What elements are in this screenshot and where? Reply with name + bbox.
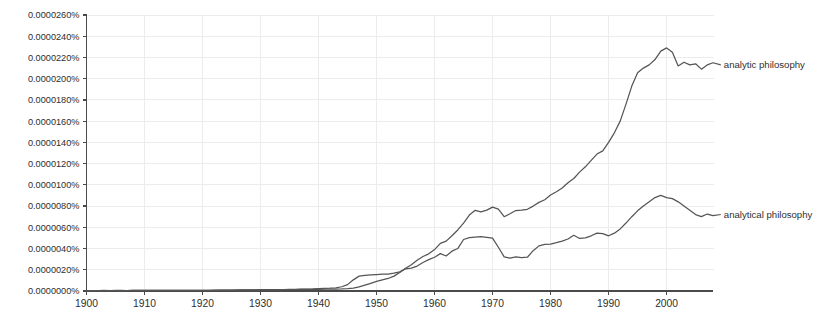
- series-label-1: analytic philosophy: [724, 59, 805, 70]
- x-axis-tick-label: 1920: [191, 298, 214, 309]
- x-axis-tick-label: 2000: [655, 298, 678, 309]
- series-line-2: [87, 195, 714, 290]
- y-axis-tick-label: 0.0000260%: [28, 10, 80, 20]
- series-leader-line: [713, 215, 721, 216]
- x-axis: [87, 291, 714, 295]
- series-label-2: analytical philosophy: [724, 209, 813, 220]
- y-axis-tick-label: 0.0000240%: [28, 32, 80, 42]
- chart-canvas: 0.0000260%0.0000240%0.0000220%0.0000200%…: [0, 0, 829, 317]
- ngram-viewer-chart: 0.0000260%0.0000240%0.0000220%0.0000200%…: [0, 0, 829, 317]
- series-leader-line: [713, 63, 721, 65]
- y-axis-tick-labels: 0.0000260%0.0000240%0.0000220%0.0000200%…: [28, 10, 80, 296]
- y-axis-tick-label: 0.0000060%: [28, 223, 80, 233]
- x-axis-tick-label: 1970: [481, 298, 504, 309]
- x-axis-tick-label: 1900: [75, 298, 98, 309]
- y-axis-tick-label: 0.0000140%: [28, 138, 80, 148]
- y-axis-tick-label: 0.0000200%: [28, 74, 80, 84]
- x-axis-tick-labels: 1900191019201930194019501960197019801990…: [75, 298, 678, 309]
- y-axis-tick-label: 0.0000040%: [28, 244, 80, 254]
- y-axis-tick-label: 0.0000100%: [28, 180, 80, 190]
- x-axis-tick-label: 1980: [539, 298, 562, 309]
- x-axis-tick-label: 1960: [423, 298, 446, 309]
- x-axis-tick-label: 1950: [365, 298, 388, 309]
- series-line-1: [87, 48, 714, 291]
- x-axis-tick-label: 1990: [597, 298, 620, 309]
- data-series-lines: [87, 48, 714, 291]
- x-axis-tick-label: 1930: [249, 298, 272, 309]
- y-axis: [83, 14, 87, 291]
- y-axis-tick-label: 0.0000120%: [28, 159, 80, 169]
- gridlines-vertical: [87, 15, 667, 291]
- gridlines-horizontal: [87, 15, 715, 270]
- x-axis-tick-label: 1940: [307, 298, 330, 309]
- y-axis-tick-label: 0.0000020%: [28, 265, 80, 275]
- y-axis-tick-label: 0.0000180%: [28, 95, 80, 105]
- x-axis-tick-label: 1910: [133, 298, 156, 309]
- y-axis-tick-label: 0.0000220%: [28, 53, 80, 63]
- series-annotation-labels: analytic philosophyanalytical philosophy: [713, 59, 813, 220]
- y-axis-tick-label: 0.0000000%: [28, 286, 80, 296]
- y-axis-tick-label: 0.0000160%: [28, 117, 80, 127]
- y-axis-tick-label: 0.0000080%: [28, 201, 80, 211]
